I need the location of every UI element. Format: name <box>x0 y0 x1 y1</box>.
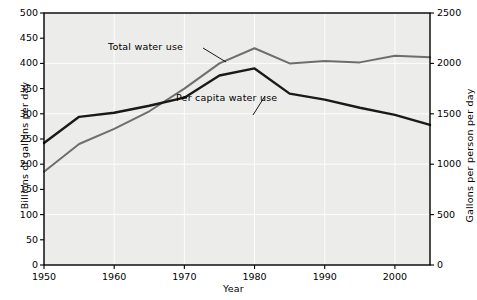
x-tick-label: 1990 <box>303 271 347 282</box>
x-axis-title: Year <box>0 283 467 294</box>
y-left-tick-label: 450 <box>4 32 38 43</box>
series-label-per-capita-water-use: Per capita water use <box>176 92 277 103</box>
y-right-tick-label: 0 <box>437 259 477 270</box>
y-left-tick-label: 0 <box>4 259 38 270</box>
x-tick-label: 1950 <box>22 271 66 282</box>
y-left-tick-label: 500 <box>4 7 38 18</box>
y-left-tick-label: 50 <box>4 234 38 245</box>
x-tick-label: 2000 <box>373 271 417 282</box>
y-right-tick-label: 2500 <box>437 7 477 18</box>
y-axis-left-title: Billions of gallons per day <box>19 66 30 226</box>
series-label-total-water-use: Total water use <box>108 41 183 52</box>
x-tick-label: 1970 <box>162 271 206 282</box>
y-right-tick-label: 2000 <box>437 57 477 68</box>
x-tick-label: 1960 <box>92 271 136 282</box>
y-axis-right-title: Gallons per person per day <box>464 76 475 236</box>
plot-background <box>44 13 430 265</box>
x-tick-label: 1980 <box>233 271 277 282</box>
